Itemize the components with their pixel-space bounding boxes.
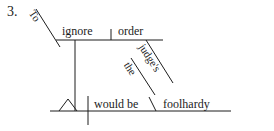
subject-placeholder-triangle [59,99,77,111]
diagram-lines [0,0,274,131]
label-ignore: ignore [62,25,93,37]
label-foolhardy: foolhardy [163,98,210,110]
label-would-be: would be [94,98,138,110]
predicate-adjective-divider [149,97,156,111]
label-order: order [118,25,143,37]
sentence-diagram-figure: 3. To ignore order judge's the would be … [0,0,274,131]
item-number: 3. [7,5,18,19]
